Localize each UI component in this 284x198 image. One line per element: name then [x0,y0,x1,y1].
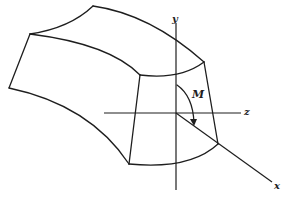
y-axis-label: y [172,14,178,24]
beam-top-near-edge [30,34,140,75]
z-axis-label: z [244,107,250,117]
end-face-bottom-edge [129,144,218,165]
x-axis-line [176,113,272,182]
beam-bottom-near-edge [9,88,129,164]
curved-beam-diagram [0,0,284,198]
end-face-left-edge [129,75,140,164]
curved-beam [9,6,218,165]
diagram-canvas: y z x M [0,0,284,198]
moment-arrowhead-icon [190,119,197,126]
beam-left-end-edge [9,34,30,88]
beam-top-back-edge [30,6,93,34]
end-face-right-edge [204,62,218,144]
moment-label: M [192,89,204,100]
beam-top-far-edge [93,6,204,62]
end-face-top-edge [140,62,204,76]
x-axis-label: x [274,181,280,191]
